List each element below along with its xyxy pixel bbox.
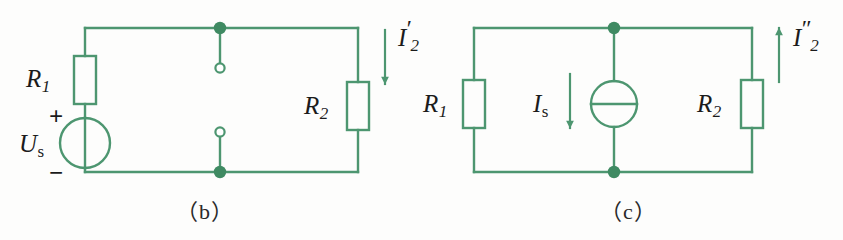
- polarity-plus-b: +: [49, 104, 63, 129]
- open-terminal-upper-b: [215, 63, 224, 72]
- circuit-figure: R1 + Us − R2 I′2 （b） R1 Is R2 I″2 （c）: [0, 0, 843, 240]
- caption-panel-b: （b）: [176, 201, 234, 223]
- junction-dot-top-c: [608, 22, 620, 34]
- label-resistor-r1-c: R1: [423, 91, 447, 120]
- caption-panel-c: （c）: [600, 201, 657, 223]
- junction-dot-bottom-b: [214, 166, 226, 178]
- resistor-r1-b: [74, 56, 96, 104]
- label-resistor-r2-b: R2: [304, 93, 328, 122]
- label-current-i2-prime-b: I′2: [398, 17, 419, 54]
- panel-b-circuit: [60, 28, 385, 172]
- panel-c-circuit: [463, 28, 779, 172]
- resistor-r2-b: [347, 82, 369, 130]
- open-terminal-lower-b: [215, 127, 224, 136]
- resistor-r2-c: [741, 80, 763, 128]
- label-resistor-r1-b: R1: [26, 66, 50, 95]
- label-voltage-source-us-b: Us: [19, 131, 44, 160]
- label-resistor-r2-c: R2: [697, 91, 721, 120]
- polarity-minus-b: −: [49, 160, 63, 185]
- resistor-r1-c: [463, 80, 485, 128]
- label-current-source-is-c: Is: [533, 91, 548, 120]
- junction-dot-bottom-c: [608, 166, 620, 178]
- junction-dot-top-b: [214, 22, 226, 34]
- label-current-i2-doubleprime-c: I″2: [793, 17, 819, 54]
